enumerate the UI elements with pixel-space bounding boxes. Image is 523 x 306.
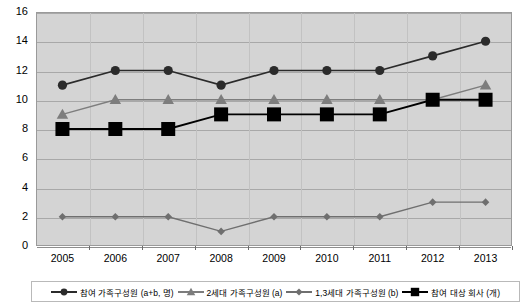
y-tick-label-14: 14 (0, 35, 28, 46)
y-tick-label-2: 2 (0, 211, 28, 222)
data-point (164, 213, 172, 221)
x-tick-label-2007: 2007 (138, 252, 198, 264)
legend-diamond-icon (286, 287, 312, 297)
data-point (214, 107, 228, 121)
legend-item-0[interactable]: 참여 가족구성원 (a+b, 명) (49, 286, 176, 298)
data-point (269, 66, 278, 75)
data-point (376, 213, 384, 221)
x-tick-label-2011: 2011 (350, 252, 410, 264)
legend-item-3[interactable]: 참여 대상 회사 (개) (400, 286, 502, 298)
data-point (268, 94, 280, 104)
y-tick-label-0: 0 (0, 240, 28, 251)
x-tick-label-2010: 2010 (297, 252, 357, 264)
data-point (482, 198, 490, 206)
data-point (59, 213, 67, 221)
x-tick-label-2008: 2008 (191, 252, 251, 264)
data-point (58, 81, 67, 90)
data-point (320, 107, 334, 121)
x-tick-2007 (195, 246, 196, 250)
x-tick-label-2006: 2006 (85, 252, 145, 264)
data-point (215, 94, 227, 104)
x-tick-2010 (353, 246, 354, 250)
legend-square-icon (402, 287, 428, 297)
chart-legend: 참여 가족구성원 (a+b, 명)2세대 가족구성원 (a)1,3세대 가족구성… (31, 281, 520, 302)
y-tick-label-8: 8 (0, 123, 28, 134)
x-tick-label-2009: 2009 (244, 252, 304, 264)
x-tick-2006 (142, 246, 143, 250)
data-point (429, 198, 437, 206)
data-point (162, 94, 174, 104)
data-point (480, 79, 492, 89)
legend-label-2: 1,3세대 가족구성원 (b) (315, 286, 398, 298)
data-point (270, 213, 278, 221)
data-point (479, 93, 493, 107)
data-point (323, 213, 331, 221)
data-point (322, 66, 331, 75)
x-tick-2013 (512, 246, 513, 250)
data-point (108, 122, 122, 136)
legend-triangle-icon (178, 287, 204, 297)
x-tick-label-2005: 2005 (32, 252, 92, 264)
x-tick-2005 (89, 246, 90, 250)
data-point (110, 94, 122, 104)
x-tick-2012 (459, 246, 460, 250)
data-point (321, 94, 333, 104)
data-point (55, 122, 69, 136)
x-tick-label-2013: 2013 (456, 252, 516, 264)
x-tick-label-2012: 2012 (403, 252, 463, 264)
x-tick-2009 (300, 246, 301, 250)
data-point (217, 228, 225, 236)
y-tick-label-6: 6 (0, 152, 28, 163)
data-point (267, 107, 281, 121)
legend-item-1[interactable]: 2세대 가족구성원 (a) (176, 286, 285, 298)
series-0 (58, 37, 490, 90)
legend-circle-icon (51, 287, 77, 297)
data-point (111, 66, 120, 75)
data-point (374, 94, 386, 104)
y-tick-label-12: 12 (0, 65, 28, 76)
series-2 (59, 198, 490, 235)
data-point (426, 93, 440, 107)
legend-label-1: 2세대 가족구성원 (a) (207, 286, 283, 298)
x-tick-2008 (248, 246, 249, 250)
data-point (428, 51, 437, 60)
legend-label-0: 참여 가족구성원 (a+b, 명) (80, 286, 174, 298)
data-point (373, 107, 387, 121)
y-tick-label-4: 4 (0, 182, 28, 193)
y-tick-label-16: 16 (0, 6, 28, 17)
data-point (161, 122, 175, 136)
data-point (112, 213, 120, 221)
x-tick-2011 (406, 246, 407, 250)
data-point (217, 81, 226, 90)
data-point (164, 66, 173, 75)
data-point (375, 66, 384, 75)
series-line-0 (62, 41, 485, 85)
series-layer (36, 12, 512, 246)
y-tick-label-10: 10 (0, 94, 28, 105)
legend-item-2[interactable]: 1,3세대 가족구성원 (b) (284, 286, 400, 298)
data-point (481, 37, 490, 46)
legend-label-3: 참여 대상 회사 (개) (431, 286, 500, 298)
gridline-0 (37, 247, 511, 248)
line-chart: 0246810121416 20052006200720082009201020… (0, 0, 523, 306)
